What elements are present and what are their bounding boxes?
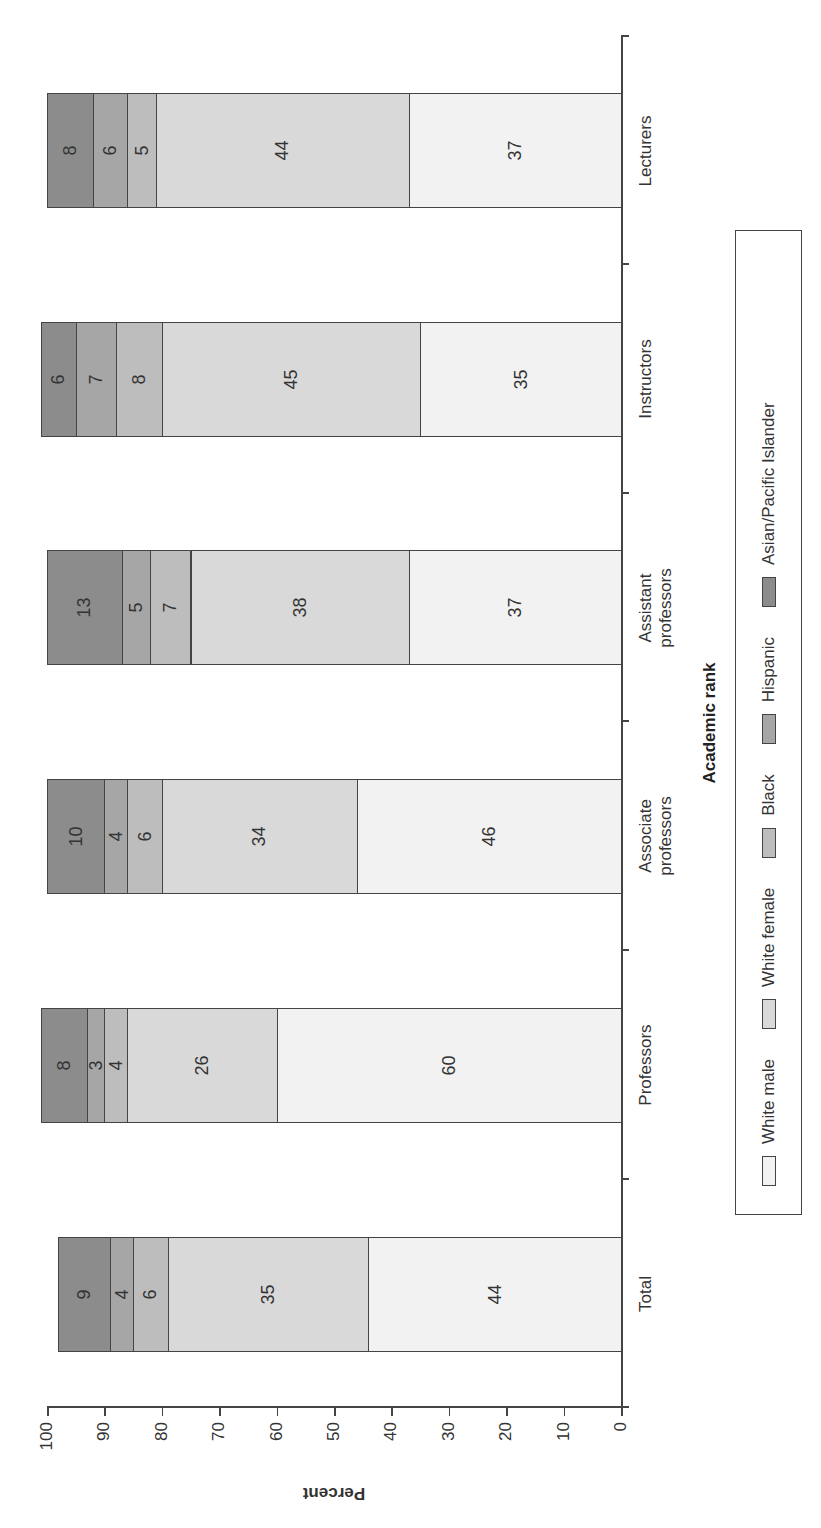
y-tick-label: 60 <box>267 1422 287 1462</box>
bar-segment-hispanic: 3 <box>87 1008 105 1123</box>
y-tick-label: 100 <box>37 1422 57 1462</box>
bar-instructors: 3545876 <box>0 322 821 437</box>
category-label: Associateprofessors <box>636 766 676 906</box>
x-axis-line <box>621 36 623 1408</box>
bar-segment-white-male: 46 <box>357 779 622 894</box>
x-axis-label: Academic rank <box>700 623 720 823</box>
bar-segment-asian-pacific-islander: 9 <box>58 1237 111 1352</box>
y-tick <box>104 1408 106 1416</box>
y-tick-label: 50 <box>324 1422 344 1462</box>
y-tick <box>391 1408 393 1416</box>
chart-figure: Percent 0102030405060708090100 443564960… <box>0 0 821 1528</box>
bar-total: 4435649 <box>0 1237 821 1352</box>
legend-swatch-white-male <box>762 1156 776 1186</box>
bar-segment-white-male: 60 <box>277 1008 622 1123</box>
legend-swatch-white-female <box>762 999 776 1029</box>
bar-lecturers: 3744568 <box>0 93 821 208</box>
legend-item-hispanic: Hispanic <box>759 637 779 744</box>
y-axis-line <box>47 1407 622 1409</box>
legend-item-asian-pacific-islander: Asian/Pacific Islander <box>759 402 779 607</box>
y-tick-label: 10 <box>554 1422 574 1462</box>
x-tick <box>621 950 629 952</box>
legend-swatch-asian-pacific-islander <box>762 577 776 607</box>
bar-segment-black: 5 <box>127 93 157 208</box>
y-tick <box>449 1408 451 1416</box>
bar-segment-hispanic: 5 <box>122 550 152 665</box>
bar-segment-hispanic: 7 <box>76 322 117 437</box>
bar-professors: 6026438 <box>0 1008 821 1123</box>
bar-segment-white-female: 38 <box>191 550 410 665</box>
bar-segment-black: 6 <box>127 779 162 894</box>
x-tick <box>621 721 629 723</box>
y-tick-label: 30 <box>439 1422 459 1462</box>
legend-label: Black <box>759 774 779 816</box>
x-tick <box>621 36 629 38</box>
y-tick <box>277 1408 279 1416</box>
bar-segment-black: 8 <box>116 322 163 437</box>
y-tick <box>564 1408 566 1416</box>
legend-label: White male <box>759 1059 779 1144</box>
y-tick <box>47 1408 49 1416</box>
bar-segment-black: 4 <box>104 1008 128 1123</box>
bar-segment-white-female: 34 <box>162 779 358 894</box>
bar-associate-professors: 46346410 <box>0 779 821 894</box>
y-tick <box>506 1408 508 1416</box>
bar-segment-hispanic: 6 <box>93 93 128 208</box>
y-tick-label: 0 <box>611 1422 631 1462</box>
y-tick <box>621 1408 623 1416</box>
bar-segment-white-female: 45 <box>162 322 421 437</box>
legend-item-white-female: White female <box>759 888 779 1029</box>
y-tick-label: 80 <box>152 1422 172 1462</box>
legend-swatch-black <box>762 828 776 858</box>
bar-segment-white-male: 37 <box>409 93 622 208</box>
x-tick <box>621 264 629 266</box>
bar-segment-asian-pacific-islander: 10 <box>47 779 105 894</box>
category-label: Instructors <box>636 309 656 449</box>
y-tick <box>162 1408 164 1416</box>
legend-item-white-male: White male <box>759 1059 779 1186</box>
legend-label: Hispanic <box>759 637 779 702</box>
y-tick-label: 90 <box>94 1422 114 1462</box>
y-tick-label: 70 <box>209 1422 229 1462</box>
bar-segment-black: 6 <box>133 1237 168 1352</box>
bar-segment-black: 7 <box>150 550 191 665</box>
y-tick <box>334 1408 336 1416</box>
bar-segment-asian-pacific-islander: 6 <box>41 322 76 437</box>
x-tick <box>621 493 629 495</box>
y-axis-label: Percent <box>299 1483 369 1503</box>
bar-segment-white-female: 35 <box>168 1237 370 1352</box>
bar-segment-white-male: 44 <box>368 1237 622 1352</box>
legend-label: Asian/Pacific Islander <box>759 402 779 565</box>
bar-segment-asian-pacific-islander: 8 <box>41 1008 88 1123</box>
bar-segment-white-female: 26 <box>127 1008 277 1123</box>
y-tick-label: 20 <box>496 1422 516 1462</box>
bar-segment-white-male: 35 <box>420 322 622 437</box>
x-tick <box>621 1407 629 1409</box>
bar-segment-white-female: 44 <box>156 93 410 208</box>
legend-swatch-hispanic <box>762 714 776 744</box>
bar-segment-hispanic: 4 <box>110 1237 134 1352</box>
bar-segment-asian-pacific-islander: 8 <box>47 93 94 208</box>
category-label: Lecturers <box>636 81 656 221</box>
category-label: Total <box>636 1224 656 1364</box>
legend-item-black: Black <box>759 774 779 858</box>
bar-assistant-professors: 37387513 <box>0 550 821 665</box>
legend: White male White female Black Hispanic A… <box>735 230 802 1215</box>
category-label: Professors <box>636 995 656 1135</box>
legend-label: White female <box>759 888 779 987</box>
bar-segment-asian-pacific-islander: 13 <box>47 550 123 665</box>
y-tick <box>219 1408 221 1416</box>
x-tick <box>621 1179 629 1181</box>
y-tick-label: 40 <box>381 1422 401 1462</box>
bar-segment-white-male: 37 <box>409 550 622 665</box>
bar-segment-hispanic: 4 <box>104 779 128 894</box>
category-label: Assistantprofessors <box>636 538 676 678</box>
